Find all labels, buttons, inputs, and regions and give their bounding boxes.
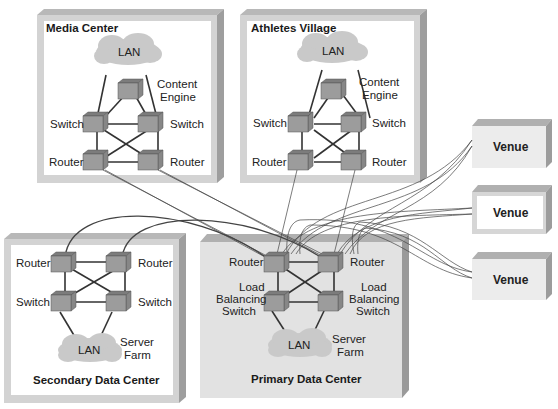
venue-label: Venue: [493, 273, 529, 287]
lan-label: LAN: [78, 344, 100, 356]
site-media-center: Media Center LAN Content Engine Switch S…: [37, 9, 224, 183]
venue-3: Venue: [472, 252, 552, 300]
switch-device: [341, 112, 366, 132]
router-label: Router: [138, 257, 173, 269]
load-balancing-switch-label: Switch: [222, 305, 256, 317]
router-device: [138, 150, 163, 170]
router-label: Router: [170, 156, 205, 168]
server-farm-label: Farm: [337, 346, 364, 358]
lan-label: LAN: [118, 46, 140, 58]
content-engine-label: Engine: [362, 89, 398, 101]
switch-label: Switch: [16, 296, 50, 308]
server-farm-label: Server: [332, 333, 366, 345]
router-label: Router: [252, 156, 287, 168]
venue-2: Venue: [472, 185, 552, 234]
load-balancing-switch-device: [318, 291, 343, 311]
switch-device: [83, 112, 108, 132]
router-device: [264, 252, 289, 272]
server-farm-label: Server: [120, 336, 154, 348]
router-device: [341, 150, 366, 170]
router-label: Router: [350, 256, 385, 268]
switch-device: [138, 112, 163, 132]
load-balancing-switch-label: Load: [239, 281, 265, 293]
switch-label: Switch: [50, 118, 84, 130]
switch-device: [106, 291, 131, 311]
router-label: Router: [229, 256, 264, 268]
lan-label: LAN: [322, 45, 344, 57]
load-balancing-switch-label: Balancing: [349, 293, 400, 305]
router-device: [288, 150, 313, 170]
content-engine-device: [321, 79, 346, 99]
load-balancing-switch-device: [264, 291, 289, 311]
router-device: [51, 252, 76, 272]
server-farm-label: Farm: [124, 349, 151, 361]
router-device: [83, 150, 108, 170]
switch-label: Switch: [138, 296, 172, 308]
load-balancing-switch-label: Switch: [356, 305, 390, 317]
site-title: Media Center: [46, 22, 119, 34]
content-engine-label: Engine: [160, 91, 196, 103]
switch-label: Switch: [253, 117, 287, 129]
content-engine-device: [118, 79, 143, 99]
site-title: Athletes Village: [251, 22, 336, 34]
switch-device: [51, 291, 76, 311]
site-title: Secondary Data Center: [33, 374, 160, 386]
switch-label: Switch: [372, 117, 406, 129]
site-athletes-village: Athletes Village LAN Content Engine Swit…: [240, 9, 427, 183]
content-engine-label: Content: [157, 78, 198, 90]
content-engine-label: Content: [359, 76, 400, 88]
router-label: Router: [372, 156, 407, 168]
venue-label: Venue: [493, 140, 529, 154]
switch-device: [288, 112, 313, 132]
lan-label: LAN: [288, 339, 310, 351]
router-label: Router: [49, 156, 84, 168]
venue-label: Venue: [493, 206, 529, 220]
site-title: Primary Data Center: [251, 373, 362, 385]
router-device: [318, 252, 343, 272]
network-diagram: Media Center LAN Content Engine Switch S…: [0, 0, 558, 409]
router-label: Router: [16, 257, 51, 269]
venue-1: Venue: [472, 119, 552, 168]
load-balancing-switch-label: Balancing: [216, 293, 267, 305]
switch-label: Switch: [170, 118, 204, 130]
router-device: [106, 252, 131, 272]
load-balancing-switch-label: Load: [361, 281, 387, 293]
